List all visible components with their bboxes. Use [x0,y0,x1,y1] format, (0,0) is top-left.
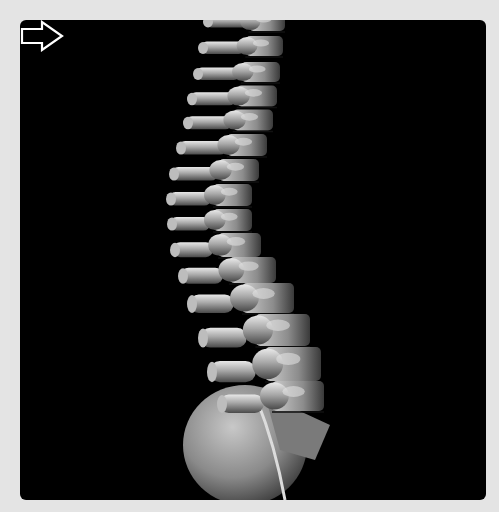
vertebra [198,314,310,348]
vertebra [187,86,277,108]
image-panel [20,20,486,500]
arrow-indicator-icon [20,20,64,52]
vertebra [193,62,280,83]
vertebra [178,257,276,284]
vertebra [176,134,267,157]
vertebra [170,233,261,258]
vertebra [207,347,321,382]
vertebra [166,184,252,207]
vertebra [169,159,259,182]
vertebra [198,36,283,57]
vertebra [167,209,252,232]
vertebra [203,20,285,32]
vertebra [187,283,294,314]
spine-ct-rendering [20,20,486,500]
vertebra [217,381,324,413]
vertebra [183,110,273,132]
